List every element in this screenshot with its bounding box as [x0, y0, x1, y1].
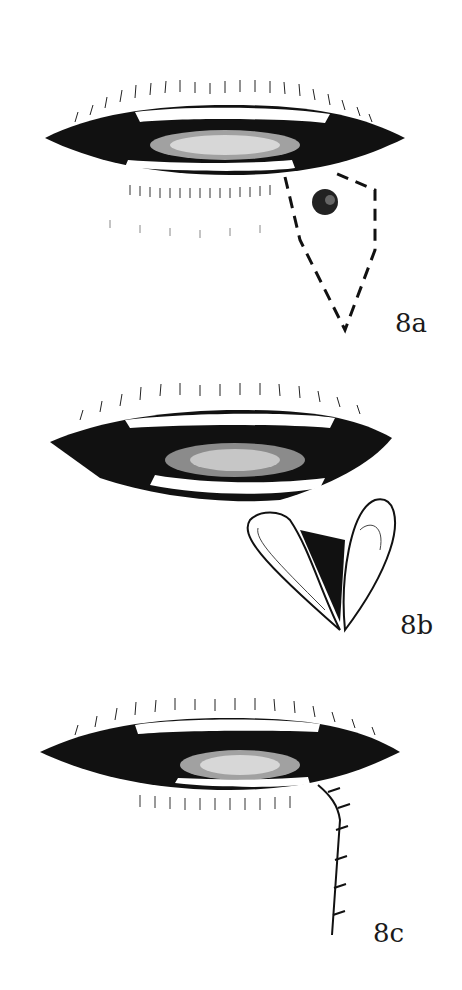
- panel-label-8c: 8c: [373, 918, 404, 948]
- lips-illustration-8a: [0, 60, 462, 350]
- panel-8c: 8c: [0, 680, 462, 980]
- panel-label-8b: 8b: [400, 610, 433, 640]
- panel-8a: 8a: [0, 60, 462, 350]
- panel-label-8a: 8a: [395, 308, 427, 338]
- panel-8b: 8b: [0, 360, 462, 660]
- lips-illustration-8b: [0, 360, 462, 660]
